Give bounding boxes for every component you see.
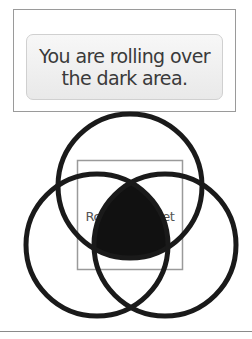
venn-diagram: Rollover target: [0, 0, 252, 339]
bottom-divider: [0, 331, 252, 332]
